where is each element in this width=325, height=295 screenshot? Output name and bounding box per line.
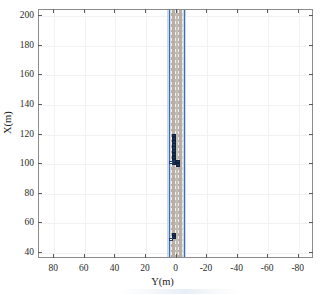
- y-tick-mark: [38, 45, 42, 46]
- lane-marking: [178, 43, 179, 46]
- lane-marking: [175, 65, 176, 68]
- lane-marking: [171, 192, 172, 195]
- lane-marking: [178, 65, 179, 68]
- lane-marking: [182, 241, 183, 244]
- lane-marking: [175, 175, 176, 178]
- lane-marking: [182, 109, 183, 112]
- lane-marking: [175, 219, 176, 222]
- y-tick-mark-right: [309, 252, 313, 253]
- x-tick-label: -60: [261, 263, 274, 273]
- x-axis-title: Y(m): [0, 276, 325, 287]
- x-tick-mark-top: [267, 9, 268, 13]
- lane-marking: [178, 60, 179, 63]
- lane-marking: [182, 76, 183, 79]
- y-tick-mark: [38, 252, 42, 253]
- x-tick-mark: [53, 254, 54, 258]
- lane-marking: [175, 71, 176, 74]
- lane-marking: [171, 98, 172, 101]
- lane-marking: [171, 181, 172, 184]
- lane-marking: [175, 170, 176, 173]
- lane-marking: [182, 16, 183, 19]
- lane-marking: [171, 208, 172, 211]
- y-tick-mark-right: [309, 45, 313, 46]
- lane-marking: [178, 208, 179, 211]
- lane-marking: [175, 115, 176, 118]
- y-tick-mark-right: [309, 15, 313, 16]
- lane-marking: [178, 82, 179, 85]
- lane-marking: [171, 175, 172, 178]
- lane-marking: [178, 170, 179, 173]
- lane-marking: [182, 164, 183, 167]
- x-tick-label: 80: [49, 263, 59, 273]
- lane-marking: [175, 93, 176, 96]
- lane-marking: [182, 236, 183, 239]
- lane-marking: [171, 38, 172, 41]
- lane-marking: [171, 203, 172, 206]
- lane-marking: [182, 49, 183, 52]
- lane-marking: [182, 60, 183, 63]
- lane-marking: [178, 10, 179, 13]
- lane-marking: [171, 76, 172, 79]
- lane-marking: [178, 120, 179, 123]
- x-tick-mark-top: [53, 9, 54, 13]
- lane-marking: [182, 175, 183, 178]
- lane-marking: [182, 159, 183, 162]
- lane-marking: [178, 225, 179, 228]
- lane-marking: [182, 65, 183, 68]
- lane-marking: [175, 208, 176, 211]
- y-tick-mark: [38, 222, 42, 223]
- lane-marking: [171, 60, 172, 63]
- lane-marking: [175, 186, 176, 189]
- lane-marking: [182, 148, 183, 151]
- vehicle-marker: [176, 163, 180, 167]
- lane-marking: [175, 214, 176, 217]
- lane-marking: [182, 208, 183, 211]
- lane-marking: [171, 93, 172, 96]
- y-tick-label: 100: [8, 158, 34, 168]
- lane-marking: [175, 60, 176, 63]
- lane-marking: [175, 225, 176, 228]
- lane-marking: [182, 27, 183, 30]
- figure-canvas: 406080100120140160180200806040200-20-40-…: [0, 0, 325, 295]
- x-tick-mark-top: [237, 9, 238, 13]
- lane-marking: [178, 197, 179, 200]
- lane-marking: [182, 203, 183, 206]
- lane-marking: [178, 137, 179, 140]
- lane-marking: [182, 98, 183, 101]
- lane-marking: [175, 109, 176, 112]
- lane-marking: [178, 181, 179, 184]
- lane-marking: [171, 258, 172, 259]
- y-tick-label: 80: [8, 188, 34, 198]
- lane-marking: [171, 65, 172, 68]
- x-tick-mark: [206, 254, 207, 258]
- x-tick-label: 20: [140, 263, 150, 273]
- road-edge-line-right: [184, 9, 185, 258]
- x-tick-mark-top: [114, 9, 115, 13]
- lane-marking: [171, 32, 172, 35]
- lane-marking: [171, 126, 172, 129]
- y-tick-label: 200: [8, 10, 34, 20]
- x-tick-mark: [298, 254, 299, 258]
- lane-marking: [182, 252, 183, 255]
- x-tick-mark-top: [145, 9, 146, 13]
- lane-marking: [175, 49, 176, 52]
- lane-marking: [175, 54, 176, 57]
- x-tick-label: 60: [79, 263, 89, 273]
- y-tick-mark: [38, 15, 42, 16]
- y-tick-mark: [38, 104, 42, 105]
- x-tick-mark-top: [206, 9, 207, 13]
- lane-marking: [182, 71, 183, 74]
- lane-marking: [175, 76, 176, 79]
- lane-marking: [171, 21, 172, 24]
- grid-line-vertical: [115, 10, 116, 257]
- lane-marking: [182, 247, 183, 250]
- ego-vehicle-marker: [169, 238, 172, 241]
- lane-marking: [182, 225, 183, 228]
- lane-marking: [178, 186, 179, 189]
- road-edge-line-left: [169, 9, 170, 258]
- lane-marking: [171, 87, 172, 90]
- lane-marking: [178, 93, 179, 96]
- ego-vehicle-marker: [169, 161, 172, 164]
- lane-marking: [178, 219, 179, 222]
- y-tick-label: 160: [8, 69, 34, 79]
